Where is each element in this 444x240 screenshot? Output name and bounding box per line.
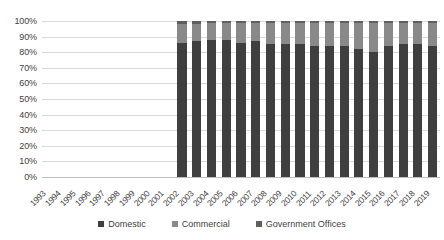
bar-segment bbox=[295, 44, 304, 177]
y-tick-label: 30% bbox=[19, 125, 37, 135]
bar-segment bbox=[281, 23, 290, 45]
y-tick-label: 10% bbox=[19, 156, 37, 166]
bar-stack bbox=[177, 21, 186, 177]
bar-column bbox=[74, 21, 83, 177]
legend-swatch-icon bbox=[256, 221, 262, 227]
bar-column bbox=[428, 21, 437, 177]
bar-stack bbox=[413, 21, 422, 177]
x-tick-label: 2019 bbox=[411, 188, 431, 208]
chart-legend: DomesticCommercialGovernment Offices bbox=[0, 219, 444, 229]
bar-segment bbox=[192, 41, 201, 177]
bar-segment bbox=[340, 46, 349, 177]
bar-stack bbox=[428, 21, 437, 177]
bar-column bbox=[236, 21, 245, 177]
y-tick-label: 80% bbox=[19, 47, 37, 57]
bar-stack bbox=[207, 21, 216, 177]
bar-column bbox=[369, 21, 378, 177]
bar-column bbox=[310, 21, 319, 177]
bar-segment bbox=[266, 23, 275, 45]
bar-segment bbox=[236, 23, 245, 43]
plot-area bbox=[42, 21, 440, 177]
bar-column bbox=[325, 21, 334, 177]
bar-stack bbox=[354, 21, 363, 177]
bar-segment bbox=[428, 23, 437, 46]
legend-item[interactable]: Commercial bbox=[172, 219, 230, 229]
legend-swatch-icon bbox=[172, 221, 178, 227]
bar-column bbox=[133, 21, 142, 177]
bar-stack bbox=[236, 21, 245, 177]
bar-column bbox=[399, 21, 408, 177]
bar-segment bbox=[310, 46, 319, 177]
y-tick-label: 0% bbox=[24, 172, 37, 182]
bar-segment bbox=[192, 24, 201, 41]
bar-segment bbox=[354, 49, 363, 177]
bar-segment bbox=[384, 23, 393, 46]
bar-column bbox=[354, 21, 363, 177]
bar-segment bbox=[369, 23, 378, 53]
bar-segment bbox=[222, 40, 231, 177]
bar-segment bbox=[413, 23, 422, 45]
y-tick-label: 70% bbox=[19, 63, 37, 73]
bar-segment bbox=[354, 23, 363, 50]
bar-stack bbox=[251, 21, 260, 177]
y-tick-label: 90% bbox=[19, 32, 37, 42]
bar-segment bbox=[177, 24, 186, 43]
bar-segment bbox=[207, 23, 216, 40]
bar-segment bbox=[413, 44, 422, 177]
bar-column bbox=[60, 21, 69, 177]
bar-column bbox=[45, 21, 54, 177]
legend-item[interactable]: Domestic bbox=[98, 219, 146, 229]
bar-segment bbox=[251, 41, 260, 177]
bar-column bbox=[251, 21, 260, 177]
bar-stack bbox=[281, 21, 290, 177]
bar-column bbox=[104, 21, 113, 177]
bar-segment bbox=[236, 43, 245, 177]
bar-segment bbox=[310, 23, 319, 46]
bar-segment bbox=[384, 46, 393, 177]
bar-segment bbox=[325, 23, 334, 46]
y-tick-label: 60% bbox=[19, 78, 37, 88]
bar-segment bbox=[325, 46, 334, 177]
y-axis: 100%90%80%70%60%50%40%30%20%10%0% bbox=[0, 21, 40, 177]
y-tick-label: 20% bbox=[19, 141, 37, 151]
bar-column bbox=[281, 21, 290, 177]
bar-segment bbox=[399, 44, 408, 177]
bar-column bbox=[222, 21, 231, 177]
bar-stack bbox=[369, 21, 378, 177]
bar-column bbox=[163, 21, 172, 177]
y-tick-label: 50% bbox=[19, 94, 37, 104]
bar-column bbox=[384, 21, 393, 177]
legend-item[interactable]: Government Offices bbox=[256, 219, 346, 229]
legend-label: Government Offices bbox=[266, 219, 346, 229]
bars-layer bbox=[42, 21, 440, 177]
bar-column bbox=[266, 21, 275, 177]
bar-segment bbox=[399, 23, 408, 45]
bar-column bbox=[413, 21, 422, 177]
y-tick-label: 40% bbox=[19, 110, 37, 120]
bar-segment bbox=[207, 40, 216, 177]
bar-column bbox=[295, 21, 304, 177]
bar-segment bbox=[281, 44, 290, 177]
bar-stack bbox=[310, 21, 319, 177]
bar-column bbox=[340, 21, 349, 177]
bar-stack bbox=[340, 21, 349, 177]
bar-column bbox=[89, 21, 98, 177]
bar-stack bbox=[325, 21, 334, 177]
bar-stack bbox=[399, 21, 408, 177]
bar-segment bbox=[340, 23, 349, 46]
bar-segment bbox=[222, 23, 231, 40]
bar-stack bbox=[295, 21, 304, 177]
legend-label: Domestic bbox=[108, 219, 146, 229]
bar-column bbox=[148, 21, 157, 177]
bar-segment bbox=[369, 52, 378, 177]
bar-column bbox=[177, 21, 186, 177]
legend-swatch-icon bbox=[98, 221, 104, 227]
bar-stack bbox=[222, 21, 231, 177]
bar-stack bbox=[384, 21, 393, 177]
bar-column bbox=[192, 21, 201, 177]
legend-label: Commercial bbox=[182, 219, 230, 229]
bar-segment bbox=[428, 46, 437, 177]
bar-segment bbox=[251, 23, 260, 42]
bar-column bbox=[207, 21, 216, 177]
x-axis: 1993199419951996199719981999200020012002… bbox=[42, 178, 440, 220]
